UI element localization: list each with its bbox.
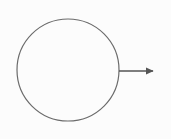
diagram-svg	[0, 0, 171, 139]
circle-shape	[17, 19, 119, 121]
diagram-canvas	[0, 0, 171, 139]
